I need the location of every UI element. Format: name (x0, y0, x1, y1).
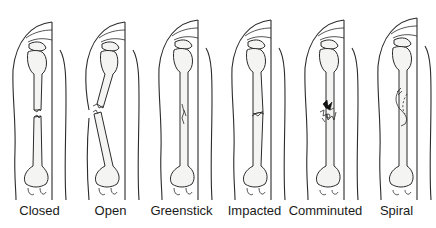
panel-closed: Closed (4, 0, 75, 228)
greenstick-fracture-illustration (146, 0, 217, 200)
panel-comminuted: Comminuted (290, 0, 361, 228)
panel-greenstick: Greenstick (146, 0, 217, 228)
closed-fracture-illustration (4, 0, 75, 200)
label-spiral: Spiral (351, 203, 436, 218)
panel-open: Open (75, 0, 146, 228)
open-fracture-illustration (75, 0, 146, 200)
spiral-fracture-illustration (361, 0, 432, 200)
impacted-fracture-illustration (219, 0, 290, 200)
comminuted-fracture-illustration (290, 0, 361, 200)
panel-spiral: Spiral (361, 0, 432, 228)
panel-impacted: Impacted (219, 0, 290, 228)
